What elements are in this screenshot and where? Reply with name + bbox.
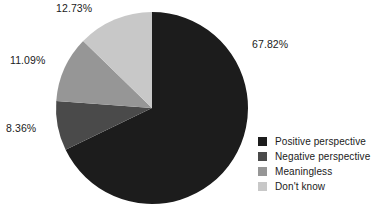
legend-item-meaningless[interactable]: Meaningless	[258, 165, 370, 178]
legend-label-meaningless: Meaningless	[275, 165, 332, 178]
slice-value-label-dont-know: 12.73%	[56, 2, 92, 14]
pie-slices-group	[56, 12, 248, 204]
chart-legend: Positive perspectiveNegative perspective…	[258, 135, 370, 193]
legend-label-positive-perspective: Positive perspective	[275, 135, 366, 148]
legend-swatch-positive-perspective	[258, 137, 267, 146]
legend-swatch-negative-perspective	[258, 152, 267, 161]
legend-item-negative-perspective[interactable]: Negative perspective	[258, 150, 370, 163]
slice-value-label-negative-perspective: 8.36%	[6, 122, 36, 134]
pie-chart-figure: 67.82% 8.36% 11.09% 12.73% Positive pers…	[0, 0, 386, 218]
legend-item-positive-perspective[interactable]: Positive perspective	[258, 135, 370, 148]
legend-label-negative-perspective: Negative perspective	[275, 150, 370, 163]
legend-swatch-don-t-know	[258, 182, 267, 191]
slice-value-label-meaningless: 11.09%	[10, 54, 45, 66]
legend-swatch-meaningless	[258, 167, 267, 176]
legend-item-don-t-know[interactable]: Don't know	[258, 180, 370, 193]
slice-value-label-positive-perspective: 67.82%	[252, 38, 288, 50]
legend-label-don-t-know: Don't know	[275, 180, 325, 193]
